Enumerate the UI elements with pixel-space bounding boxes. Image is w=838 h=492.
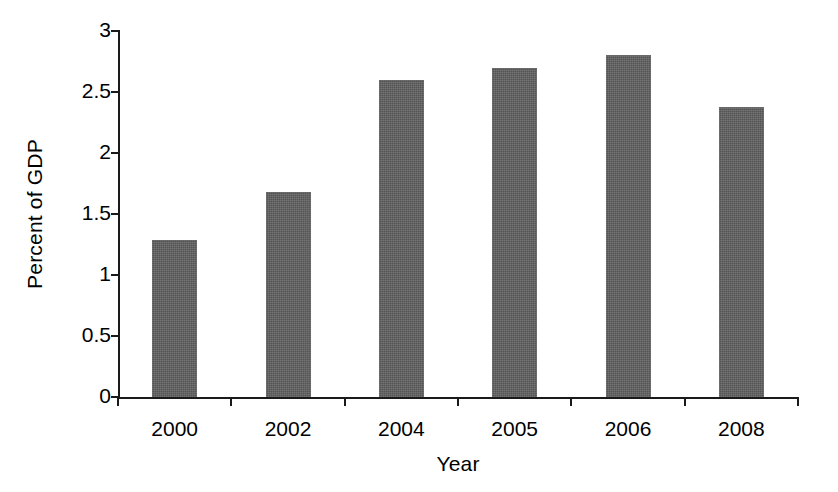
y-axis-tick: [111, 213, 119, 215]
bar: [379, 80, 424, 397]
y-axis-tick: [111, 274, 119, 276]
y-axis-tick: [111, 91, 119, 93]
bar: [266, 192, 311, 397]
y-axis-title: Percent of GDP: [18, 31, 52, 397]
y-axis-tick-label: 2: [99, 140, 111, 164]
x-axis-tick: [344, 397, 346, 406]
bar: [719, 107, 764, 397]
y-axis-tick: [111, 335, 119, 337]
x-axis-tick-label: 2004: [341, 417, 461, 441]
x-axis-tick-label: 2006: [568, 417, 688, 441]
x-axis-tick: [797, 397, 799, 406]
bar: [152, 240, 197, 397]
x-axis-tick: [117, 397, 119, 406]
y-axis-tick: [111, 30, 119, 32]
x-axis-tick-label: 2000: [115, 417, 235, 441]
bar-chart-figure: Percent of GDP 00.511.522.53200020022004…: [0, 0, 838, 492]
x-axis-tick-label: 2008: [681, 417, 801, 441]
y-axis-tick-label: 3: [99, 18, 111, 42]
x-axis-tick: [457, 397, 459, 406]
plot-area: 00.511.522.53200020022004200520062008: [118, 31, 798, 397]
y-axis-tick: [111, 152, 119, 154]
x-axis-tick-label: 2002: [228, 417, 348, 441]
x-axis-title: Year: [118, 452, 798, 476]
y-axis-tick-label: 0: [99, 384, 111, 408]
y-axis-tick-label: 1: [99, 262, 111, 286]
x-axis-tick: [230, 397, 232, 406]
bar: [492, 68, 537, 397]
x-axis-tick: [570, 397, 572, 406]
y-axis-tick-label: 0.5: [82, 323, 111, 347]
bar: [606, 55, 651, 397]
y-axis-tick-label: 2.5: [82, 79, 111, 103]
y-axis-tick-label: 1.5: [82, 201, 111, 225]
x-axis-tick: [684, 397, 686, 406]
x-axis-tick-label: 2005: [455, 417, 575, 441]
